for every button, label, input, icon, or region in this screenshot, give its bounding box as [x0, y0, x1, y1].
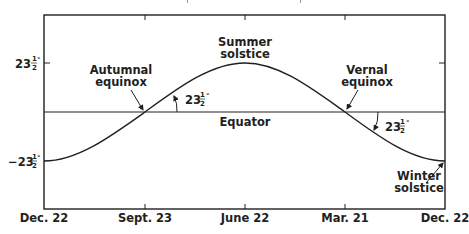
y-label-top: 23 1 2 ° — [15, 55, 41, 72]
svg-text:°: ° — [206, 92, 210, 100]
solar-declination-diagram: 23 1 2 ° −23 1 2 ° Dec. 22 Sept. 23 June… — [0, 0, 469, 234]
x-label-june22: June 22 — [220, 211, 269, 225]
svg-text:23: 23 — [15, 57, 31, 71]
vernal-equinox-label: Vernal equinox — [341, 63, 393, 89]
angle-arc-vernal-icon — [374, 112, 378, 130]
x-label-sept23: Sept. 23 — [118, 211, 172, 225]
x-label-dec22-left: Dec. 22 — [20, 211, 69, 225]
x-label-mar21: Mar. 21 — [321, 211, 369, 225]
winter-solstice-label: Winter solstice — [394, 169, 444, 195]
autumnal-equinox-label: Autumnal equinox — [90, 63, 153, 89]
angle-label-autumnal: 23 1 2 ° — [185, 91, 210, 108]
svg-text:23: 23 — [385, 120, 401, 134]
svg-text:2: 2 — [32, 64, 37, 72]
svg-text:2: 2 — [200, 100, 205, 108]
bottom-ticks — [145, 204, 345, 209]
autumnal-arrow-icon — [131, 90, 143, 110]
cropped-text-fragments — [187, 0, 301, 3]
svg-text:°: ° — [406, 119, 410, 127]
svg-text:1: 1 — [400, 118, 405, 126]
svg-text:2: 2 — [32, 162, 37, 170]
svg-text:solstice: solstice — [394, 181, 444, 195]
svg-text:°: ° — [37, 56, 41, 64]
svg-text:−23: −23 — [8, 155, 34, 169]
svg-text:equinox: equinox — [341, 75, 393, 89]
angle-label-vernal: 23 1 2 ° — [385, 118, 410, 135]
vernal-arrow-icon — [347, 90, 358, 109]
top-ticks — [145, 15, 345, 20]
y-label-bottom: −23 1 2 ° — [8, 153, 41, 170]
x-label-dec22-right: Dec. 22 — [421, 211, 469, 225]
angle-arc-autumnal-icon — [174, 96, 177, 112]
svg-text:1: 1 — [200, 91, 205, 99]
equator-label: Equator — [219, 115, 270, 129]
svg-text:23: 23 — [185, 93, 201, 107]
summer-solstice-label: Summer solstice — [218, 35, 272, 61]
x-axis-labels: Dec. 22 Sept. 23 June 22 Mar. 21 Dec. 22 — [20, 211, 469, 225]
svg-text:solstice: solstice — [220, 47, 270, 61]
svg-text:°: ° — [37, 154, 41, 162]
svg-text:2: 2 — [400, 127, 405, 135]
svg-text:equinox: equinox — [95, 75, 147, 89]
